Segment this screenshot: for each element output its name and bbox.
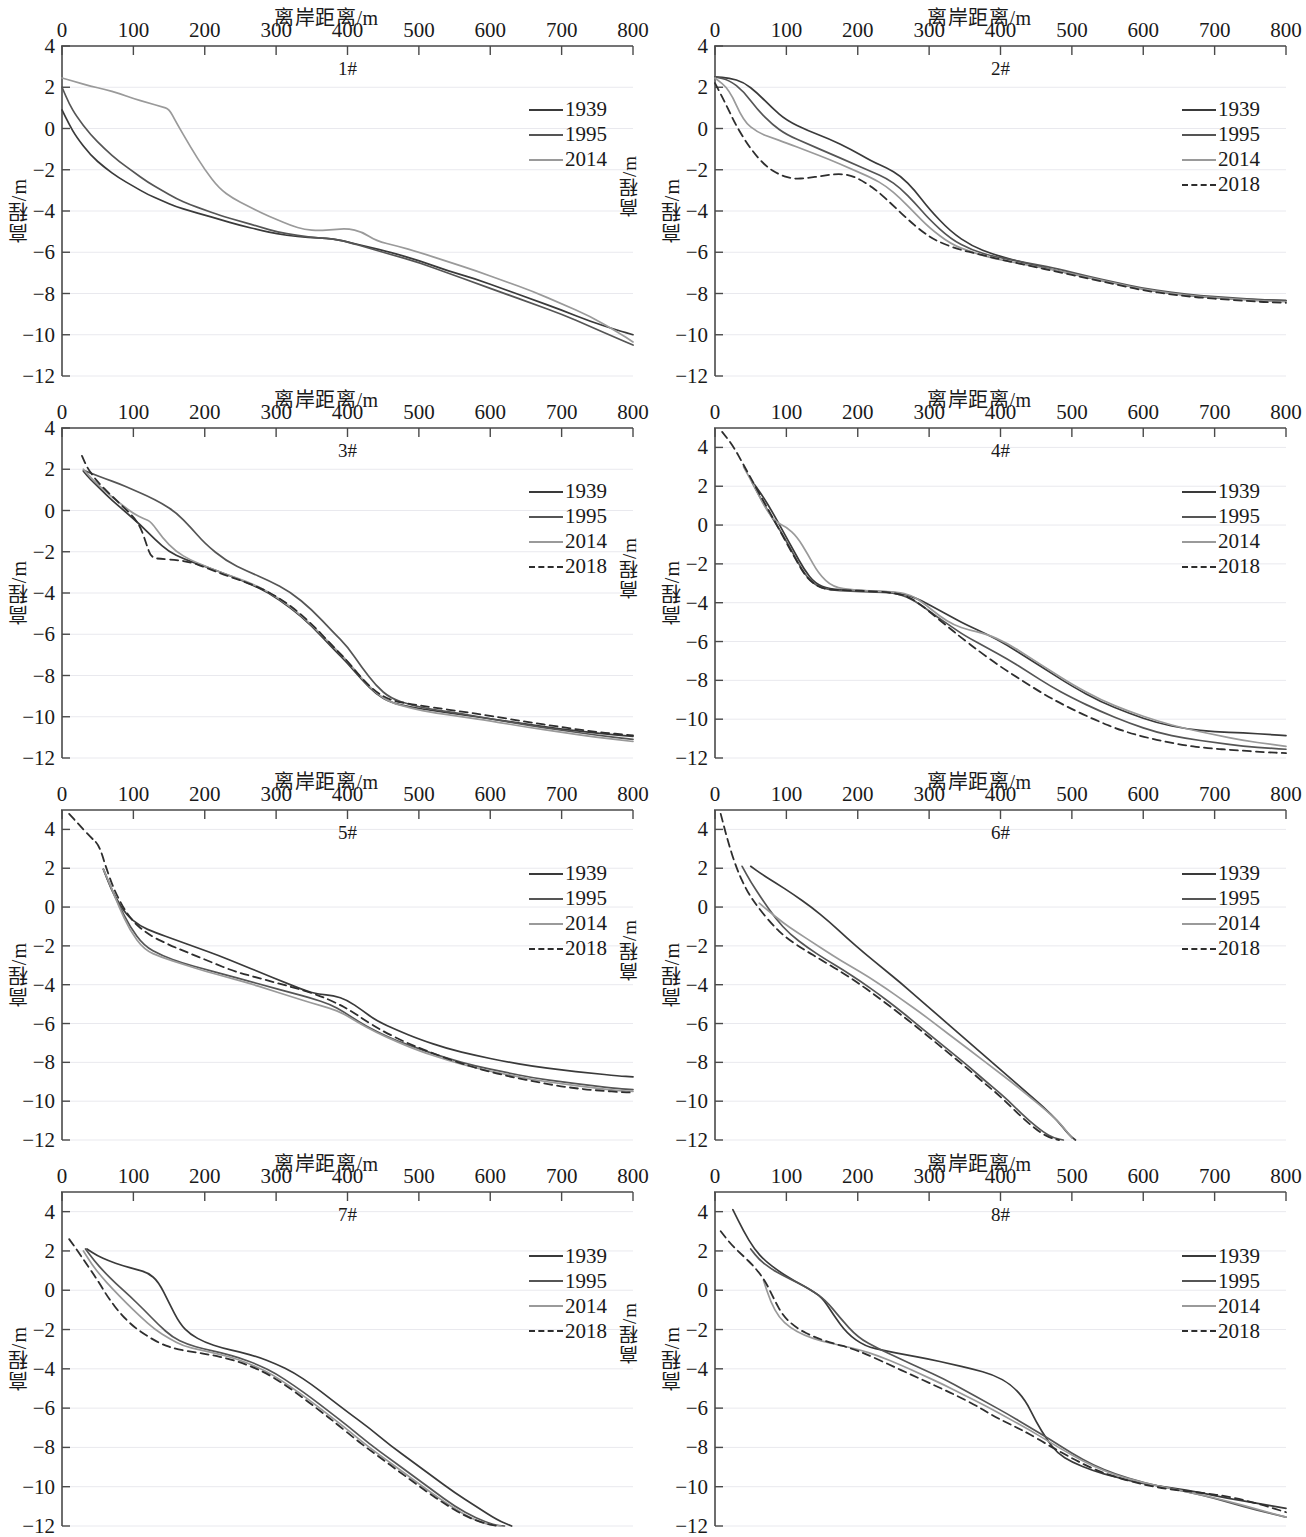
x-tick-label: 800 bbox=[1270, 400, 1302, 425]
x-tick-label: 700 bbox=[546, 1164, 578, 1189]
x-tick-label: 400 bbox=[985, 18, 1017, 43]
x-tick-label: 500 bbox=[403, 1164, 435, 1189]
y-axis-title: 高程/m bbox=[4, 560, 33, 625]
x-tick-label: 100 bbox=[118, 18, 150, 43]
y-tick-label: 0 bbox=[45, 116, 56, 141]
legend-label: 2018 bbox=[565, 1319, 607, 1344]
panel-title: 1# bbox=[62, 58, 633, 80]
x-tick-label: 700 bbox=[1199, 782, 1231, 807]
x-tick-label: 600 bbox=[475, 18, 507, 43]
legend-label: 1939 bbox=[565, 97, 607, 122]
legend-item-2014: 2014 bbox=[529, 147, 607, 172]
legend-item-2014: 2014 bbox=[1182, 911, 1260, 936]
y-tick-label: −10 bbox=[675, 1089, 708, 1114]
legend-item-1939: 1939 bbox=[529, 1244, 607, 1269]
legend-swatch-1995 bbox=[529, 134, 563, 136]
y-tick-label: −4 bbox=[33, 972, 55, 997]
x-tick-label: 600 bbox=[475, 1164, 507, 1189]
y-axis-title-right: 高程/m bbox=[616, 919, 643, 981]
legend-label: 2018 bbox=[1218, 1319, 1260, 1344]
profile-panel-8: 离岸距离/m0100200300400500600700800420−2−4−6… bbox=[653, 1146, 1306, 1531]
legend-label: 1939 bbox=[1218, 479, 1260, 504]
legend-item-2018: 2018 bbox=[529, 936, 607, 961]
legend-label: 1939 bbox=[565, 1244, 607, 1269]
y-tick-label: −4 bbox=[686, 1356, 708, 1381]
legend-label: 1995 bbox=[565, 504, 607, 529]
y-tick-label: −8 bbox=[33, 1050, 55, 1075]
legend-item-1939: 1939 bbox=[529, 97, 607, 122]
legend-swatch-2014 bbox=[1182, 541, 1216, 543]
x-tick-label: 0 bbox=[57, 400, 68, 425]
x-tick-label: 100 bbox=[118, 400, 150, 425]
y-tick-label: −6 bbox=[686, 1011, 708, 1036]
x-tick-label: 200 bbox=[189, 18, 221, 43]
y-tick-label: −8 bbox=[33, 281, 55, 306]
y-tick-label: −2 bbox=[686, 551, 708, 576]
x-tick-label: 600 bbox=[1128, 782, 1160, 807]
y-tick-label: −6 bbox=[686, 240, 708, 265]
legend-item-2014: 2014 bbox=[529, 1294, 607, 1319]
legend-swatch-2018 bbox=[1182, 948, 1216, 950]
legend-label: 1939 bbox=[1218, 97, 1260, 122]
x-tick-label: 0 bbox=[710, 18, 721, 43]
legend: 193919952014 bbox=[529, 97, 607, 172]
y-tick-label: 4 bbox=[698, 435, 709, 460]
x-tick-label: 400 bbox=[332, 18, 364, 43]
legend-item-1995: 1995 bbox=[1182, 504, 1260, 529]
legend: 1939199520142018 bbox=[1182, 861, 1260, 961]
profile-panel-7: 离岸距离/m0100200300400500600700800420−2−4−6… bbox=[0, 1146, 653, 1531]
legend-item-2018: 2018 bbox=[1182, 554, 1260, 579]
legend-item-2014: 2014 bbox=[529, 911, 607, 936]
profile-panel-2: 离岸距离/m0100200300400500600700800420−2−4−6… bbox=[653, 0, 1306, 382]
x-tick-label: 300 bbox=[913, 18, 945, 43]
y-tick-label: −10 bbox=[22, 1474, 55, 1499]
y-tick-label: −8 bbox=[33, 663, 55, 688]
legend-label: 1995 bbox=[565, 122, 607, 147]
y-tick-label: −10 bbox=[22, 704, 55, 729]
y-tick-label: −12 bbox=[22, 1514, 55, 1537]
legend-label: 1939 bbox=[1218, 1244, 1260, 1269]
legend-item-2014: 2014 bbox=[1182, 1294, 1260, 1319]
legend-label: 2014 bbox=[565, 147, 607, 172]
legend: 1939199520142018 bbox=[1182, 479, 1260, 579]
x-tick-label: 0 bbox=[57, 18, 68, 43]
x-tick-label: 100 bbox=[771, 18, 803, 43]
y-tick-label: −10 bbox=[22, 322, 55, 347]
legend-item-1939: 1939 bbox=[529, 861, 607, 886]
x-tick-label: 600 bbox=[475, 400, 507, 425]
legend-swatch-1995 bbox=[1182, 1280, 1216, 1282]
x-tick-label: 800 bbox=[617, 1164, 649, 1189]
legend-swatch-1939 bbox=[529, 109, 563, 111]
legend-swatch-2018 bbox=[1182, 566, 1216, 568]
x-tick-label: 800 bbox=[617, 18, 649, 43]
y-tick-label: −6 bbox=[33, 622, 55, 647]
x-tick-label: 700 bbox=[1199, 1164, 1231, 1189]
x-tick-label: 400 bbox=[332, 1164, 364, 1189]
x-tick-label: 0 bbox=[710, 400, 721, 425]
legend-label: 2014 bbox=[565, 1294, 607, 1319]
y-tick-label: −10 bbox=[675, 1474, 708, 1499]
x-tick-label: 200 bbox=[842, 1164, 874, 1189]
y-tick-label: 2 bbox=[45, 856, 56, 881]
legend-label: 2014 bbox=[1218, 1294, 1260, 1319]
legend-item-2018: 2018 bbox=[1182, 936, 1260, 961]
legend-swatch-1995 bbox=[529, 1280, 563, 1282]
y-tick-label: 2 bbox=[698, 474, 709, 499]
legend-swatch-1939 bbox=[529, 1255, 563, 1257]
y-tick-label: 4 bbox=[45, 34, 56, 59]
x-tick-label: 200 bbox=[189, 1164, 221, 1189]
x-tick-label: 700 bbox=[1199, 400, 1231, 425]
x-tick-label: 100 bbox=[771, 400, 803, 425]
y-tick-label: −6 bbox=[33, 1011, 55, 1036]
x-tick-label: 100 bbox=[118, 782, 150, 807]
legend-label: 2018 bbox=[1218, 172, 1260, 197]
y-tick-label: 2 bbox=[45, 75, 56, 100]
profile-panel-1: 离岸距离/m0100200300400500600700800420−2−4−6… bbox=[0, 0, 653, 382]
x-tick-label: 500 bbox=[403, 782, 435, 807]
x-tick-label: 300 bbox=[913, 400, 945, 425]
y-tick-label: −4 bbox=[33, 1356, 55, 1381]
profile-panel-6: 离岸距离/m0100200300400500600700800420−2−4−6… bbox=[653, 764, 1306, 1146]
x-tick-label: 0 bbox=[710, 1164, 721, 1189]
series-line-2014 bbox=[83, 1251, 501, 1526]
